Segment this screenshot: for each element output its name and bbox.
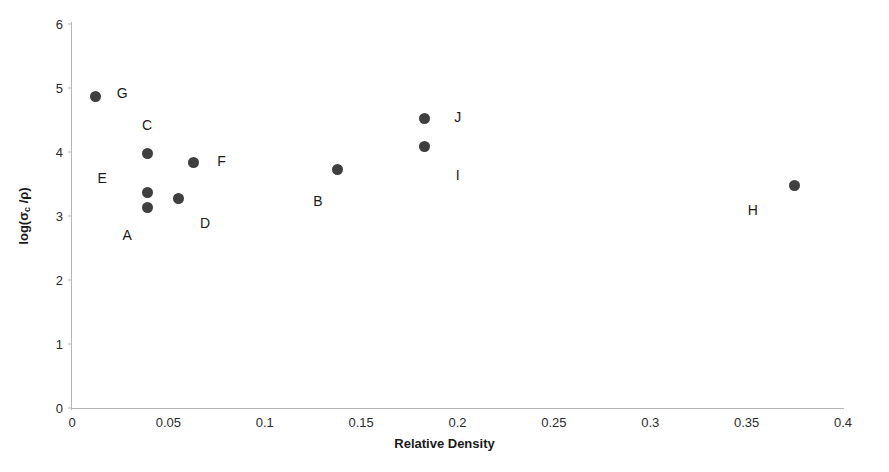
x-axis-tick-label: 0.05 [156, 408, 181, 430]
data-point-a [142, 202, 153, 213]
data-point-label-h: H [748, 202, 758, 218]
data-point-e [142, 187, 153, 198]
y-axis-tick-mark [68, 152, 72, 153]
x-axis-tick-label: 0.4 [834, 408, 852, 430]
data-point-b [332, 164, 343, 175]
data-point-d [173, 193, 184, 204]
x-axis-tick-label: 0.15 [348, 408, 373, 430]
data-point-label-c: C [142, 117, 152, 133]
y-axis-tick-mark [68, 280, 72, 281]
x-axis-tick-label: 0.25 [541, 408, 566, 430]
y-axis-title-subscript: c [22, 207, 32, 212]
y-axis-tick-mark [68, 216, 72, 217]
y-axis-title: log(σc /ρ) [14, 0, 34, 432]
plot-area: 012345600.050.10.150.20.250.30.350.4GCEA… [72, 24, 843, 408]
y-axis-title-base: log(σ [16, 212, 31, 245]
y-axis-title-tail: /ρ) [16, 187, 31, 207]
data-point-i [419, 141, 430, 152]
scatter-chart: log(σc /ρ) Relative Density 012345600.05… [0, 0, 889, 472]
data-point-label-b: B [313, 193, 322, 209]
data-point-label-j: J [454, 109, 461, 125]
x-axis-tick-label: 0 [68, 408, 75, 430]
x-axis-title: Relative Density [0, 436, 889, 451]
y-axis-tick-mark [68, 88, 72, 89]
data-point-label-i: I [456, 167, 460, 183]
y-axis-tick-mark [68, 24, 72, 25]
data-point-c [142, 148, 153, 159]
data-point-f [188, 157, 199, 168]
data-point-j [419, 113, 430, 124]
data-point-label-e: E [98, 170, 107, 186]
data-point-g [90, 91, 101, 102]
x-axis-tick-label: 0.35 [734, 408, 759, 430]
data-point-label-f: F [217, 153, 226, 169]
x-axis-tick-label: 0.1 [256, 408, 274, 430]
data-point-label-g: G [117, 85, 128, 101]
y-axis-tick-mark [68, 344, 72, 345]
data-point-h [789, 180, 800, 191]
x-axis-tick-label: 0.3 [641, 408, 659, 430]
x-axis-tick-label: 0.2 [448, 408, 466, 430]
data-point-label-a: A [123, 227, 132, 243]
data-point-label-d: D [200, 215, 210, 231]
